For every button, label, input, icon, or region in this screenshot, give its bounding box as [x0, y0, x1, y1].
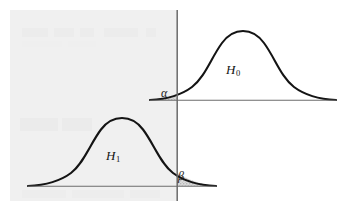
beta-label: β — [178, 169, 184, 184]
h0-label-subscript: 0 — [236, 68, 240, 78]
h1-label-subscript: 1 — [116, 154, 120, 164]
h1-label: H1 — [106, 148, 120, 164]
h1-label-letter: H — [106, 148, 116, 163]
background-panel — [10, 10, 177, 201]
hypothesis-test-figure: H0 H1 α β — [0, 0, 347, 214]
figure-canvas — [0, 0, 347, 214]
h0-label: H0 — [226, 62, 240, 78]
h0-label-letter: H — [226, 62, 236, 77]
alpha-label: α — [161, 86, 167, 101]
